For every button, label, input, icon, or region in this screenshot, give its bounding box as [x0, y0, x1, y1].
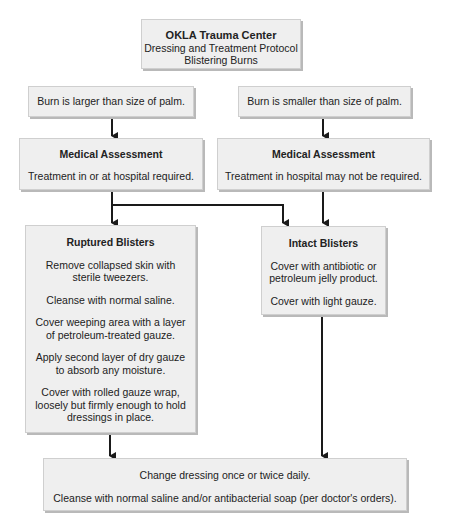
title-box: OKLA Trauma Center Dressing and Treatmen… — [141, 19, 301, 69]
condition-larger-text: Burn is larger than size of palm. — [37, 95, 185, 107]
title-org: OKLA Trauma Center — [142, 29, 300, 42]
assessment-left-text: Treatment in or at hospital required. — [20, 170, 202, 183]
condition-larger-box: Burn is larger than size of palm. — [28, 86, 194, 117]
condition-smaller-box: Burn is smaller than size of palm. — [238, 86, 411, 117]
intact-blisters-box: Intact Blisters Cover with antibiotic or… — [261, 226, 386, 315]
ruptured-step: Apply second layer of dry gauze to absor… — [34, 351, 187, 376]
intact-step: Cover with light gauze. — [266, 295, 381, 308]
assessment-right-text: Treatment in hospital may not be require… — [218, 170, 429, 183]
intact-heading: Intact Blisters — [266, 237, 381, 250]
ruptured-step: Cover with rolled gauze wrap, loosely bu… — [34, 386, 187, 424]
ruptured-step: Cover weeping area with a layer of petro… — [34, 316, 187, 341]
final-care-box: Change dressing once or twice daily. Cle… — [43, 458, 407, 511]
ruptured-blisters-box: Ruptured Blisters Remove collapsed skin … — [25, 225, 196, 433]
arrow-left-ma-to-intact — [112, 205, 283, 223]
ruptured-step: Remove collapsed skin with sterile tweez… — [34, 259, 187, 284]
final-step: Cleanse with normal saline and/or antiba… — [44, 492, 406, 505]
intact-step: Cover with antibiotic or petroleum jelly… — [266, 260, 381, 285]
assessment-left-box: Medical Assessment Treatment in or at ho… — [19, 138, 203, 190]
condition-smaller-text: Burn is smaller than size of palm. — [247, 95, 402, 107]
ruptured-heading: Ruptured Blisters — [34, 236, 187, 249]
assessment-right-box: Medical Assessment Treatment in hospital… — [217, 138, 430, 190]
ruptured-step: Cleanse with normal saline. — [34, 294, 187, 307]
assessment-left-heading: Medical Assessment — [20, 148, 202, 161]
title-protocol: Dressing and Treatment Protocol — [142, 42, 300, 55]
assessment-right-heading: Medical Assessment — [218, 148, 429, 161]
title-subject: Blistering Burns — [142, 54, 300, 67]
final-step: Change dressing once or twice daily. — [44, 469, 406, 482]
